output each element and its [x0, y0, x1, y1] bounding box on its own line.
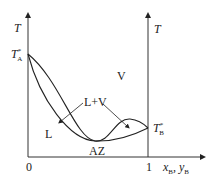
- region-two-phase-label: L+V: [84, 96, 107, 108]
- phase-diagram: [0, 0, 217, 182]
- point-a-label: T*A: [11, 48, 22, 63]
- x-axis-label: xB, yB: [163, 161, 189, 176]
- region-liquid-label: L: [45, 128, 52, 140]
- tick-one: 1: [146, 161, 152, 173]
- azeotrope-label: AZ: [89, 145, 105, 157]
- right-axis-label: T: [154, 23, 161, 35]
- lv-leader-left: [60, 103, 83, 122]
- tick-zero: 0: [26, 161, 32, 173]
- left-axis-label: T: [14, 22, 21, 34]
- region-vapor-label: V: [117, 70, 126, 82]
- point-b-label: T*B: [153, 122, 164, 137]
